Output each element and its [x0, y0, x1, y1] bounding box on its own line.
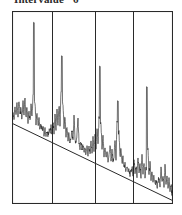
- spectrum-chart: [12, 11, 173, 204]
- figure-title-text: Intervalue: [14, 0, 64, 5]
- figure-title-suffix: 6: [73, 0, 79, 5]
- figure-root: Intervalue6: [0, 0, 182, 215]
- plot-area: [12, 11, 173, 204]
- figure-title: Intervalue6: [14, 0, 174, 6]
- plot-frame: [13, 12, 173, 204]
